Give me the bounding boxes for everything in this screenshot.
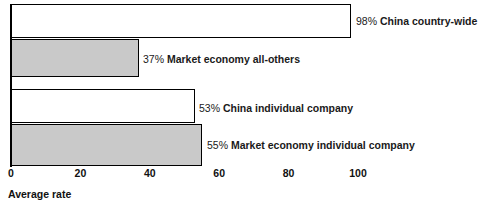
plot-area: 98% China country-wide 37% Market econom… (0, 0, 486, 170)
bar-category-china-country-wide: China country-wide (380, 15, 477, 27)
x-tick-60: 60 (213, 168, 225, 179)
bar-category-market-economy-individual-company: Market economy individual company (231, 139, 415, 151)
bar-label-china-individual-company: 53% China individual company (199, 103, 353, 114)
bar-market-economy-all-others (11, 39, 139, 77)
x-tick-80: 80 (283, 168, 295, 179)
x-tick-0: 0 (8, 168, 14, 179)
x-tick-20: 20 (75, 168, 87, 179)
bar-label-market-economy-all-others: 37% Market economy all-others (143, 54, 300, 65)
bar-category-market-economy-all-others: Market economy all-others (167, 53, 300, 65)
bar-category-china-individual-company: China individual company (223, 102, 353, 114)
bar-value-market-economy-individual-company: 55% (207, 139, 228, 151)
bar-value-market-economy-all-others: 37% (143, 53, 164, 65)
bar-label-market-economy-individual-company: 55% Market economy individual company (207, 140, 415, 151)
x-tick-100: 100 (349, 168, 367, 179)
bar-market-economy-individual-company (11, 124, 202, 166)
bar-value-china-country-wide: 98% (356, 15, 377, 27)
x-tick-40: 40 (144, 168, 156, 179)
x-axis-title: Average rate (8, 189, 71, 200)
bar-label-china-country-wide: 98% China country-wide (356, 16, 477, 27)
bar-china-individual-company (11, 89, 195, 123)
bar-value-china-individual-company: 53% (199, 102, 220, 114)
x-axis-ticks: 0 20 40 60 80 100 (0, 168, 486, 186)
bar-china-country-wide (11, 4, 351, 38)
horizontal-bar-chart: 98% China country-wide 37% Market econom… (0, 0, 486, 208)
